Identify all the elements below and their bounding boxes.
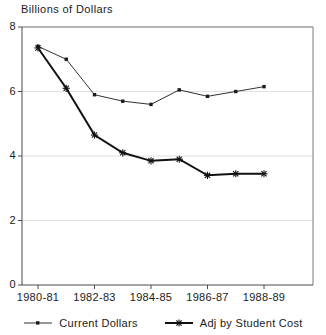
data-point (232, 170, 239, 177)
y-tick-label: 2 (2, 214, 16, 226)
x-axis-ticks (38, 285, 264, 289)
x-tick-label: 1984-85 (121, 291, 181, 303)
y-tick-label: 8 (2, 20, 16, 32)
y-axis-ticks (18, 27, 22, 285)
series-markers (34, 44, 267, 179)
legend-label-adj-by-student-cost: Adj by Student Cost (200, 317, 303, 329)
data-point (34, 44, 41, 51)
legend-marker-square-icon (23, 317, 53, 329)
data-point (121, 99, 124, 102)
data-point (260, 170, 267, 177)
legend-entry-adj-by-student-cost: Adj by Student Cost (164, 317, 303, 329)
data-point (262, 85, 265, 88)
x-tick-label: 1980-81 (8, 291, 68, 303)
data-point (91, 131, 98, 138)
series-line-0 (38, 46, 264, 104)
data-point (149, 103, 152, 106)
y-tick-label: 4 (2, 149, 16, 161)
x-tick-label: 1986-87 (178, 291, 238, 303)
data-point (147, 157, 154, 164)
x-tick-label: 1982-83 (65, 291, 125, 303)
legend-marker-star-icon (164, 317, 194, 329)
chart-legend: Current Dollars Adj by Student Cost (0, 314, 326, 332)
data-point (93, 93, 96, 96)
legend-label-current-dollars: Current Dollars (59, 317, 137, 329)
plot-area (0, 0, 326, 335)
data-point (119, 149, 126, 156)
data-point (178, 88, 181, 91)
gridlines (22, 27, 313, 221)
data-point (65, 58, 68, 61)
chart-figure: Billions of Dollars 02468 1980-811982-83… (0, 0, 326, 335)
data-point (204, 172, 211, 179)
x-tick-label: 1988-89 (234, 291, 294, 303)
legend-entry-current-dollars: Current Dollars (23, 317, 137, 329)
data-point (234, 90, 237, 93)
data-point (176, 156, 183, 163)
y-tick-label: 0 (2, 278, 16, 290)
data-point (206, 95, 209, 98)
data-point (63, 85, 70, 92)
y-tick-label: 6 (2, 85, 16, 97)
